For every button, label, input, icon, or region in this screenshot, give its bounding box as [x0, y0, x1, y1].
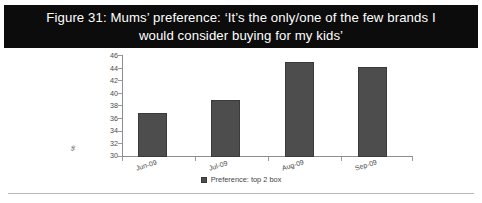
y-axis-tick-labels: 46 44 42 40 38 36 34 32 30	[94, 48, 118, 158]
legend-swatch-icon	[201, 177, 207, 183]
x-tick-mark	[195, 157, 196, 161]
chart-legend: Preference: top 2 box	[0, 175, 482, 184]
y-tick-label: 36	[96, 115, 118, 122]
y-tick-label: 38	[96, 102, 118, 109]
y-tick-label: 44	[96, 65, 118, 72]
y-tick-label: 40	[96, 90, 118, 97]
bar-aug-09[interactable]	[285, 62, 314, 157]
x-tick-mark	[268, 157, 269, 161]
x-tick-label: Aug-09	[281, 158, 305, 171]
bar-jul-09[interactable]	[211, 100, 240, 157]
bar-sep-09[interactable]	[358, 67, 387, 157]
figure-title-band: Figure 31: Mums’ preference: ‘It’s the o…	[4, 5, 478, 48]
page-title: Figure 31: Mums’ preference: ‘It’s the o…	[46, 9, 435, 44]
y-tick-label: 42	[96, 77, 118, 84]
x-tick-label: Jun-09	[135, 159, 158, 172]
x-tick-mark	[341, 157, 342, 161]
chart-plot-area: % 46 44 42 40 38 36 34 32 30	[0, 48, 482, 203]
x-tick-mark	[122, 157, 123, 161]
y-tick-label: 32	[96, 140, 118, 147]
y-tick-label: 46	[96, 52, 118, 59]
y-axis-title: %	[70, 138, 76, 158]
x-tick-label: Jul-09	[208, 159, 228, 171]
footer-divider	[8, 193, 474, 194]
y-axis-line	[122, 55, 123, 156]
legend-label: Preference: top 2 box	[211, 175, 282, 184]
figure-container: Figure 31: Mums’ preference: ‘It’s the o…	[0, 0, 482, 203]
x-tick-label: Sep-09	[354, 158, 378, 171]
bar-jun-09[interactable]	[138, 113, 167, 157]
x-tick-mark	[412, 157, 413, 161]
y-tick-label: 34	[96, 127, 118, 134]
y-tick-label: 30	[96, 152, 118, 159]
